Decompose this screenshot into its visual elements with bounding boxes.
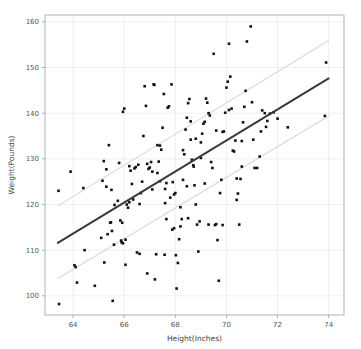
data-point	[194, 137, 197, 140]
data-point	[182, 149, 185, 152]
data-point	[83, 249, 86, 252]
x-tick-label: 68	[171, 321, 180, 329]
plot-canvas: 646668707274 100110120130140150160 Heigh…	[0, 0, 361, 349]
data-point	[168, 105, 171, 108]
data-point	[138, 203, 141, 206]
data-point	[215, 223, 218, 226]
data-point	[206, 101, 209, 104]
lower-confidence-band	[58, 116, 329, 279]
x-tick-label: 74	[324, 321, 333, 329]
data-point	[238, 223, 241, 226]
x-tick-label: 72	[273, 321, 282, 329]
data-point	[186, 185, 189, 188]
data-point	[111, 230, 114, 233]
data-point	[207, 112, 210, 115]
data-point	[251, 101, 254, 104]
scatter-plot-figure: 646668707274 100110120130140150160 Heigh…	[0, 0, 361, 349]
data-point	[256, 167, 259, 170]
data-point	[165, 218, 168, 221]
data-point	[265, 126, 268, 129]
data-point	[108, 144, 111, 147]
data-point	[171, 181, 174, 184]
data-point	[210, 161, 213, 164]
data-points	[57, 25, 327, 305]
data-point	[179, 225, 182, 228]
data-point	[224, 111, 227, 114]
data-point	[177, 262, 180, 265]
data-point	[169, 196, 172, 199]
data-point	[106, 233, 109, 236]
data-point	[217, 279, 220, 282]
data-point	[286, 126, 289, 129]
data-point	[187, 102, 190, 105]
data-point	[163, 253, 166, 256]
data-point	[122, 242, 125, 245]
data-point	[138, 253, 141, 256]
data-point	[76, 281, 79, 284]
data-point	[192, 165, 195, 168]
data-point	[266, 120, 269, 123]
data-point	[118, 162, 121, 165]
data-point	[165, 182, 168, 185]
data-point	[189, 120, 192, 123]
data-point	[261, 109, 264, 112]
data-point	[183, 153, 186, 156]
data-point	[134, 166, 137, 169]
data-point	[242, 121, 245, 124]
data-point	[150, 161, 153, 164]
data-point	[211, 167, 214, 170]
data-point	[207, 223, 210, 226]
data-point	[228, 109, 231, 112]
data-point	[235, 177, 238, 180]
y-tick-label: 160	[26, 18, 39, 26]
data-point	[143, 85, 146, 88]
data-point	[82, 187, 85, 190]
data-point	[258, 155, 261, 158]
data-point	[127, 206, 130, 209]
data-point	[136, 251, 139, 254]
data-point	[173, 227, 176, 230]
data-point	[179, 206, 182, 209]
data-point	[188, 98, 191, 101]
data-point	[203, 182, 206, 185]
y-tick-label: 120	[26, 201, 39, 209]
data-point	[203, 121, 206, 124]
data-point	[110, 189, 113, 192]
data-point	[110, 221, 113, 224]
x-tick-label: 64	[69, 321, 78, 329]
data-point	[163, 93, 166, 96]
x-tick-label: 70	[222, 321, 231, 329]
data-point	[154, 278, 157, 281]
data-point	[205, 97, 208, 100]
data-point	[74, 266, 77, 269]
data-point	[260, 130, 263, 133]
data-point	[164, 188, 167, 191]
data-point	[234, 139, 237, 142]
data-point	[101, 179, 104, 182]
data-point	[123, 107, 126, 110]
data-point	[157, 160, 160, 163]
data-point	[230, 107, 233, 110]
data-point	[151, 188, 154, 191]
data-point	[246, 40, 249, 43]
data-point	[196, 223, 199, 226]
data-point	[113, 243, 116, 246]
data-point	[186, 116, 189, 119]
data-point	[125, 203, 128, 206]
data-point	[131, 183, 134, 186]
data-point	[212, 53, 215, 56]
x-axis-title: Height(Inches)	[167, 334, 222, 343]
data-point	[148, 166, 151, 169]
data-point	[174, 192, 177, 195]
data-point	[124, 238, 127, 241]
data-point	[151, 170, 154, 173]
y-tick-labels: 100110120130140150160	[26, 18, 39, 300]
data-point	[209, 114, 212, 117]
data-point	[105, 185, 108, 188]
x-tick-label: 66	[120, 321, 129, 329]
upper-confidence-band	[58, 41, 329, 206]
data-point	[103, 261, 106, 264]
data-point	[200, 141, 203, 144]
data-point	[164, 202, 167, 205]
data-point	[253, 167, 256, 170]
